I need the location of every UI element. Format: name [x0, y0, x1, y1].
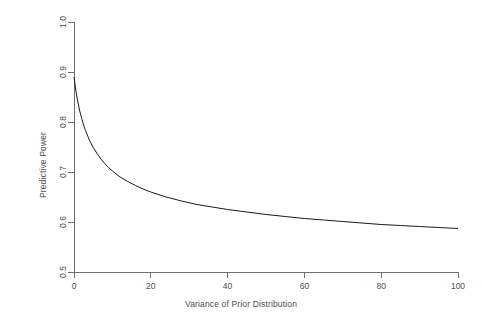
y-tick-label: 0.8	[58, 116, 68, 128]
x-tick-label: 0	[72, 281, 77, 291]
y-tick-label: 0.9	[58, 66, 68, 78]
x-axis: 020406080100	[72, 272, 466, 291]
x-tick-label: 100	[451, 281, 465, 291]
y-tick-label: 0.6	[58, 216, 68, 228]
y-axis-title: Predictive Power	[38, 35, 48, 295]
y-tick-label: 0.5	[58, 266, 68, 278]
y-tick-label: 1.0	[58, 16, 68, 28]
data-series	[74, 77, 458, 229]
x-tick-label: 80	[376, 281, 386, 291]
x-axis-title: Variance of Prior Distribution	[0, 299, 482, 309]
chart-container: 020406080100 0.50.60.70.80.91.0 Variance…	[0, 0, 482, 326]
series-line	[74, 77, 458, 229]
x-tick-label: 20	[146, 281, 156, 291]
y-tick-label: 0.7	[58, 166, 68, 178]
y-axis: 0.50.60.70.80.91.0	[58, 16, 74, 278]
x-tick-label: 40	[223, 281, 233, 291]
plot-area: 020406080100 0.50.60.70.80.91.0	[0, 0, 482, 326]
x-tick-label: 60	[300, 281, 310, 291]
